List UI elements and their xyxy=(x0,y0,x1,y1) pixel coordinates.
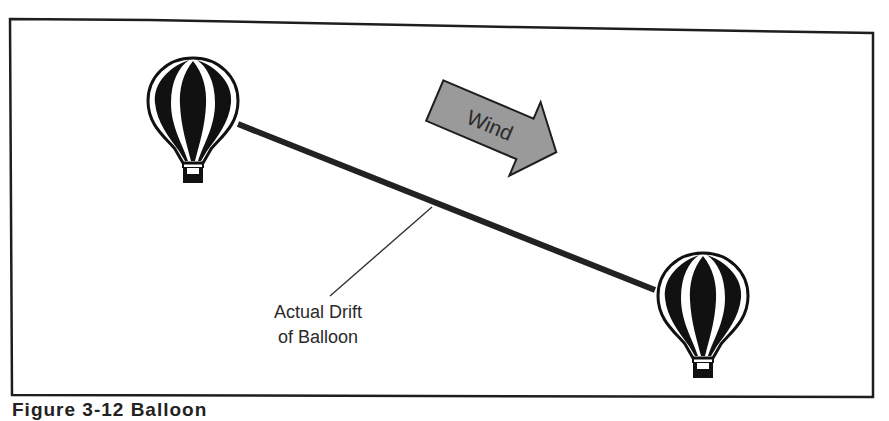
drift-label-line1: Actual Drift xyxy=(274,302,362,322)
drift-label-line2: of Balloon xyxy=(278,327,358,347)
figure-caption: Figure 3-12 Balloon xyxy=(12,399,207,421)
hot-air-balloon-end-icon xyxy=(658,253,748,378)
hot-air-balloon-start-icon xyxy=(148,58,238,183)
label-leader-line xyxy=(330,207,432,296)
drift-path-line xyxy=(238,124,655,290)
